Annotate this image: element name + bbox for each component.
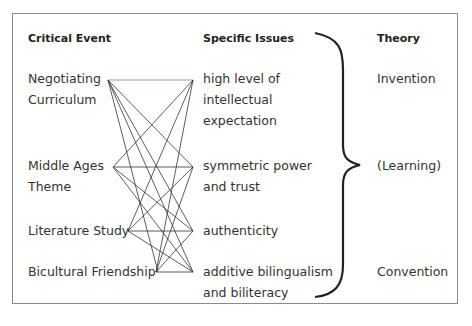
brace-icon xyxy=(315,33,360,297)
connection-lines xyxy=(0,0,472,326)
